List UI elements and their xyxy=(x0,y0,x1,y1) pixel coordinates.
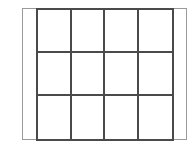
grid-cell xyxy=(139,10,173,53)
grid-cell xyxy=(105,53,139,96)
grid-cell xyxy=(105,10,139,53)
grid-cell xyxy=(139,96,173,139)
grid-table xyxy=(36,8,174,141)
grid-cell xyxy=(38,53,72,96)
grid-cell xyxy=(105,96,139,139)
grid-cell xyxy=(72,96,106,139)
grid-cell xyxy=(38,96,72,139)
grid-cell xyxy=(72,10,106,53)
grid-cell xyxy=(38,10,72,53)
grid-cell xyxy=(72,53,106,96)
grid-cell xyxy=(139,53,173,96)
